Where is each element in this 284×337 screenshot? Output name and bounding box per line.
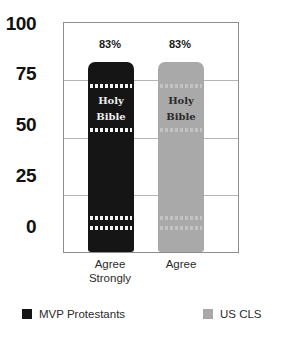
data-label-us-cls: 83% — [157, 39, 203, 50]
legend-label: US CLS — [220, 308, 262, 320]
x-axis-category-line-2: Strongly — [75, 272, 145, 286]
bar-stripe-lower-1 — [160, 216, 202, 220]
y-axis-label-25: 25 — [0, 166, 36, 185]
bar-stripe-lower-2 — [90, 226, 132, 230]
legend-item-mvp-protestants: MVP Protestants — [22, 308, 125, 320]
y-axis-label-75: 75 — [0, 64, 36, 83]
bar-bible-word-bible: Bible — [158, 111, 204, 122]
x-axis-category-agree: Agree — [146, 258, 216, 272]
bar-stripe-top — [160, 84, 202, 88]
plot-area: Holy Bible Holy Bible — [63, 22, 239, 253]
bar-stripe-lower-2 — [160, 226, 202, 230]
bar-chart: 100 75 50 25 0 Holy Bible Holy Bible 83%… — [0, 0, 284, 337]
bar-us-cls: Holy Bible — [158, 62, 204, 252]
bar-stripe-lower-1 — [90, 216, 132, 220]
bar-bible-word-holy: Holy — [88, 95, 134, 106]
bar-mvp-protestants: Holy Bible — [88, 62, 134, 252]
legend-swatch-icon — [22, 309, 32, 319]
legend-swatch-icon — [203, 309, 213, 319]
x-axis-category-agree-strongly: Agree Strongly — [75, 258, 145, 285]
x-axis-category-line-1: Agree — [75, 258, 145, 272]
y-axis-label-100: 100 — [0, 14, 36, 33]
x-axis-category-line-1: Agree — [146, 258, 216, 272]
legend-item-us-cls: US CLS — [203, 308, 262, 320]
data-label-mvp-protestants: 83% — [87, 39, 133, 50]
bar-stripe-mid — [160, 128, 202, 132]
y-axis-label-50: 50 — [0, 115, 36, 134]
bar-bible-word-bible: Bible — [88, 111, 134, 122]
bar-stripe-top — [90, 84, 132, 88]
y-axis-label-0: 0 — [0, 217, 36, 236]
bar-bible-word-holy: Holy — [158, 95, 204, 106]
legend-label: MVP Protestants — [39, 308, 125, 320]
bar-stripe-mid — [90, 128, 132, 132]
